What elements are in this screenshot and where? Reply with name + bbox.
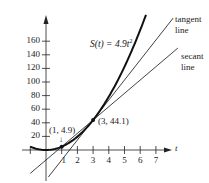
tangent-label-line1: tangent bbox=[175, 15, 202, 24]
y-tick-label: 80 bbox=[16, 91, 40, 100]
y-tick-label: 40 bbox=[16, 118, 40, 127]
secant-label: secant line bbox=[181, 52, 204, 72]
function-exponent: 2 bbox=[129, 38, 132, 44]
function-label: S(t) = 4.9t2 bbox=[90, 38, 132, 50]
secant-label-line2: line bbox=[181, 63, 204, 72]
function-text: S(t) = 4.9t bbox=[90, 39, 129, 49]
data-point bbox=[60, 145, 64, 149]
y-tick-label: 100 bbox=[16, 77, 40, 86]
x-tick-label: 5 bbox=[120, 156, 130, 165]
point2-label: (3, 44.1) bbox=[98, 117, 129, 126]
x-tick-label: 3 bbox=[88, 156, 98, 165]
y-tick-label: 60 bbox=[16, 104, 40, 113]
y-tick-label: 140 bbox=[16, 50, 40, 59]
point1-label: (1, 4.9) bbox=[49, 126, 75, 135]
x-axis-label: t bbox=[175, 144, 178, 153]
x-tick-label: 4 bbox=[104, 156, 114, 165]
point1-arrow-icon: ↓ bbox=[59, 136, 63, 144]
x-tick-label: 2 bbox=[72, 156, 82, 165]
x-tick-label: 6 bbox=[135, 156, 145, 165]
x-tick-label: 7 bbox=[151, 156, 161, 165]
data-point bbox=[91, 118, 95, 122]
secant-label-line1: secant bbox=[181, 52, 204, 61]
y-tick-label: 20 bbox=[16, 131, 40, 140]
y-axis-arrow-icon bbox=[44, 15, 49, 24]
y-tick-label: 160 bbox=[16, 36, 40, 45]
tangent-label-line2: line bbox=[175, 26, 202, 35]
tangent-label: tangent line bbox=[175, 15, 202, 35]
x-tick-label: 1 bbox=[59, 156, 69, 165]
x-axis-arrow-icon bbox=[164, 148, 172, 153]
y-tick-label: 120 bbox=[16, 63, 40, 72]
